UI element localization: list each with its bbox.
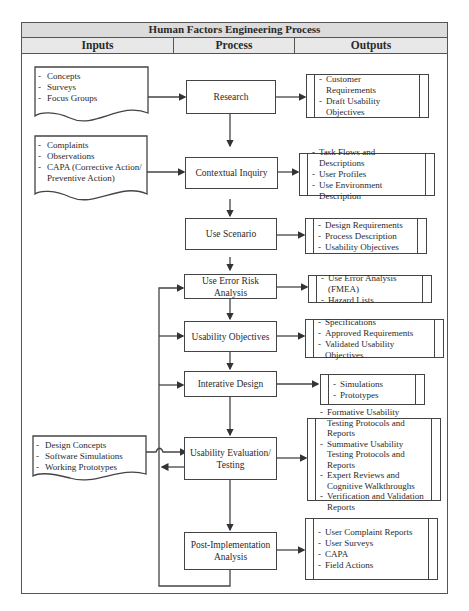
output-item: Prototypes (333, 390, 408, 401)
output-item: Expert Reviews and Cognitive Walkthrough… (320, 470, 424, 491)
output-item: Specifications (318, 317, 427, 328)
input-item: Concepts (47, 71, 144, 82)
output-post-implementation: User Complaint Reports User Surveys CAPA… (305, 518, 438, 580)
output-item: Use Environment Description (312, 180, 418, 202)
input-item: Software Simulations (45, 451, 142, 462)
output-contextual-inquiry: Task Flows and Descriptions User Profile… (299, 153, 435, 196)
input-item: Observations (47, 151, 143, 162)
output-item: Validated Usability Objectives (318, 339, 427, 361)
output-item: Simulations (333, 379, 408, 390)
input-item: Preventive Action) (47, 173, 143, 184)
output-usability-objectives: Specifications Approved Requirements Val… (305, 319, 444, 358)
process-use-scenario: Use Scenario (185, 218, 277, 250)
output-item: Verification and Validation Reports (320, 491, 424, 512)
output-item: Hazard Lists (321, 295, 415, 306)
output-item: Field Actions (318, 560, 421, 571)
process-post-implementation-analysis: Post-Implementation Analysis (184, 532, 277, 570)
output-item: Customer Requirements (319, 74, 412, 96)
output-item: Approved Requirements (318, 328, 427, 339)
output-item: User Surveys (318, 538, 421, 549)
output-use-error-risk-analysis: Use Error Analysis (FMEA) Hazard Lists (308, 275, 432, 303)
output-item: Use Error Analysis (FMEA) (321, 273, 415, 295)
process-usability-evaluation-testing: Usability Evaluation/ Testing (184, 437, 277, 480)
input-item: Working Prototypes (45, 462, 142, 473)
output-use-scenario: Design Requirements Process Description … (305, 218, 427, 254)
output-item: Formative Usability Testing Protocols an… (320, 407, 424, 439)
process-research: Research (186, 80, 276, 114)
process-use-error-risk-analysis: Use Error Risk Analysis (184, 274, 277, 299)
output-item: Summative Usability Testing Protocols an… (320, 439, 424, 471)
output-research: Customer Requirements Draft Usability Ob… (306, 74, 429, 118)
input-item: Surveys (47, 82, 144, 93)
input-doc-1: Concepts Surveys Focus Groups (35, 67, 148, 104)
output-item: User Profiles (312, 169, 418, 180)
process-interative-design: Interative Design (184, 371, 277, 397)
output-item: Task Flows and Descriptions (312, 147, 418, 169)
output-item: Usability Objectives (318, 242, 410, 253)
output-item: User Complaint Reports (318, 527, 421, 538)
output-item: Process Description (318, 231, 410, 242)
process-contextual-inquiry: Contextual Inquiry (185, 157, 278, 189)
output-item: Draft Usability Objectives (319, 96, 412, 118)
output-usability-evaluation: Formative Usability Testing Protocols an… (307, 418, 441, 501)
input-item: Design Concepts (45, 440, 142, 451)
input-item: Focus Groups (47, 93, 144, 104)
process-usability-objectives: Usability Objectives (184, 321, 277, 352)
output-item: CAPA (318, 549, 421, 560)
input-item: CAPA (Corrective Action/ (47, 162, 143, 173)
input-doc-2: Complaints Observations CAPA (Corrective… (35, 136, 147, 184)
output-item: Design Requirements (318, 220, 410, 231)
output-interative-design: Simulations Prototypes (320, 374, 425, 405)
input-item: Complaints (47, 140, 143, 151)
input-doc-3: Design Concepts Software Simulations Wor… (33, 436, 146, 473)
